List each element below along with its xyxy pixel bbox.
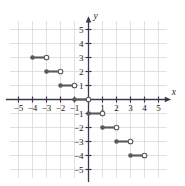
x-axis-tick-label: 3	[128, 103, 133, 113]
open-endpoint-dot	[72, 83, 77, 88]
open-endpoint-dot	[128, 139, 133, 144]
graph-svg: −5−4−3−2−112345 −5−4−3−2−112345 x y	[0, 0, 185, 186]
y-axis-tick-label: 1	[79, 81, 84, 91]
coordinate-plane-graph: −5−4−3−2−112345 −5−4−3−2−112345 x y	[0, 0, 185, 186]
open-endpoint-dot	[114, 125, 119, 130]
x-axis-tick-label: 4	[142, 103, 147, 113]
y-axis-label: y	[93, 11, 99, 21]
open-endpoint-dot	[142, 153, 147, 158]
closed-endpoint-dot	[44, 69, 49, 74]
y-axis-tick-label: −1	[74, 109, 84, 119]
y-axis-tick-label: 2	[79, 67, 84, 77]
open-endpoint-dot	[100, 111, 105, 116]
closed-endpoint-dot	[114, 139, 119, 144]
x-axis-tick-label: 2	[114, 103, 119, 113]
closed-endpoint-dot	[128, 153, 133, 158]
closed-endpoint-dot	[72, 97, 77, 102]
x-axis-tick-label: 5	[156, 103, 161, 113]
plot-background	[0, 0, 185, 186]
y-axis-tick-label: 4	[79, 39, 84, 49]
closed-endpoint-dot	[58, 83, 63, 88]
y-axis-tick-label: −5	[74, 165, 84, 175]
closed-endpoint-dot	[86, 111, 91, 116]
x-axis-tick-label: −5	[14, 103, 24, 113]
open-endpoint-dot	[44, 55, 49, 60]
open-endpoint-dot	[58, 69, 63, 74]
y-axis-tick-label: 3	[79, 53, 84, 63]
y-axis-tick-label: 5	[79, 25, 84, 35]
x-axis-label: x	[171, 87, 177, 97]
y-axis-tick-label: −3	[74, 137, 84, 147]
closed-endpoint-dot	[100, 125, 105, 130]
open-endpoint-dot	[86, 97, 91, 102]
x-axis-tick-label: −2	[56, 103, 66, 113]
closed-endpoint-dot	[30, 55, 35, 60]
y-axis-tick-label: −4	[74, 151, 84, 161]
y-axis-tick-label: −2	[74, 123, 84, 133]
x-axis-tick-label: −3	[42, 103, 52, 113]
x-axis-tick-label: −4	[28, 103, 38, 113]
